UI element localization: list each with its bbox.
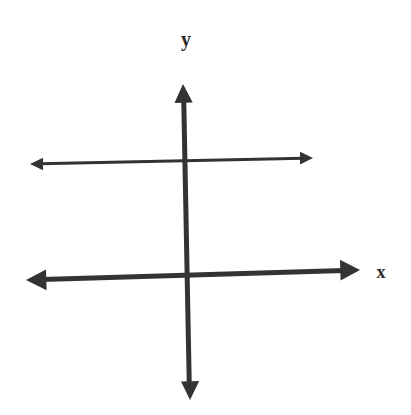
horizontal-line [30,152,313,171]
coordinate-diagram: y x [0,0,411,415]
y-axis-top-arrowhead [175,84,193,103]
horizontal-line-right-arrowhead [300,152,313,165]
horizontal-line-left-arrowhead [30,158,43,171]
horizontal-line-shaft [40,158,304,164]
x-axis-left-arrowhead [26,270,47,291]
x-axis [26,260,360,290]
x-axis-shaft [42,271,344,280]
y-axis [175,84,200,400]
y-axis-label: y [181,28,191,51]
x-axis-right-arrowhead [340,260,360,281]
x-axis-label: x [377,262,386,282]
y-axis-bottom-arrowhead [181,381,199,400]
y-axis-shaft [184,98,190,386]
